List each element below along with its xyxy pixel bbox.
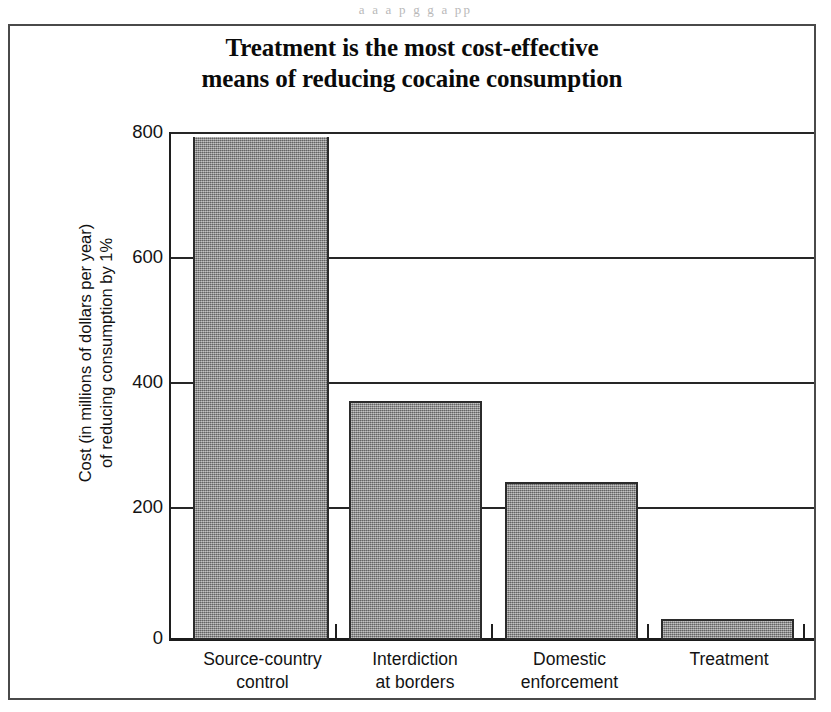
x-category-label-line-1: Interdiction [335,648,495,671]
bar-domestic-enforcement[interactable] [505,482,638,640]
figure-frame: Treatment is the most cost-effective mea… [8,24,816,700]
x-category-label-interdiction-at-borders: Interdiction at borders [335,648,495,694]
y-tick-label-200: 200 [43,498,163,516]
gridline-800 [169,132,814,134]
x-axis-tick-3 [647,624,649,640]
chart-title-line-2: means of reducing cocaine consumption [10,63,814,94]
page-scan-bleed: a a a p g g a pp [0,0,831,22]
x-category-label-line-1: Source-country [175,648,350,671]
y-axis-spine [169,132,171,640]
x-category-label-treatment: Treatment [649,648,809,671]
x-category-label-line-2: enforcement [487,671,652,694]
y-tick-label-0: 0 [43,629,163,647]
x-category-label-domestic-enforcement: Domestic enforcement [487,648,652,694]
x-category-label-line-1: Treatment [649,648,809,671]
y-tick-label-800: 800 [43,123,163,141]
x-category-label-line-2: at borders [335,671,495,694]
plot-area: 800 600 400 200 0 Source-country control… [169,132,814,640]
y-axis-title: Cost (in millions of dollars per year) o… [75,188,117,518]
y-tick-label-600: 600 [43,248,163,266]
x-category-label-line-1: Domestic [487,648,652,671]
chart-title: Treatment is the most cost-effective mea… [10,32,814,94]
bar-source-country-control[interactable] [193,137,329,640]
x-axis-tick-4 [803,624,805,640]
chart-title-line-1: Treatment is the most cost-effective [10,32,814,63]
y-tick-label-400: 400 [43,373,163,391]
bar-interdiction-at-borders[interactable] [349,401,482,640]
x-axis-tick-2 [491,624,493,640]
bar-treatment[interactable] [661,619,794,640]
x-category-label-source-country-control: Source-country control [175,648,350,694]
x-category-label-line-2: control [175,671,350,694]
x-axis-tick-1 [335,624,337,640]
y-axis-title-line-2: of reducing consumption by 1% [96,188,117,518]
y-axis-title-line-1: Cost (in millions of dollars per year) [75,188,96,518]
